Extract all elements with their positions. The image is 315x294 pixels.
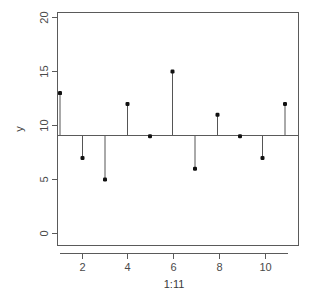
y-tick-label: 20 — [38, 11, 50, 23]
x-tick-label: 4 — [124, 261, 130, 273]
x-axis-title: 1:11 — [164, 278, 185, 290]
x-tick-label: 8 — [216, 261, 222, 273]
x-tick-label: 6 — [170, 261, 176, 273]
y-axis-title: y — [13, 126, 25, 132]
x-tick-label: 10 — [259, 261, 271, 273]
needle-series — [60, 72, 285, 180]
data-point — [58, 91, 62, 95]
y-tick-label: 0 — [38, 230, 50, 236]
plot-frame — [58, 13, 299, 246]
data-point — [148, 134, 152, 138]
y-tick-marks — [52, 18, 58, 234]
data-point — [103, 178, 107, 182]
x-tick-labels: 2 4 6 8 10 — [79, 261, 271, 273]
y-tick-labels: 20 15 10 5 0 — [38, 11, 50, 236]
data-point — [283, 102, 287, 106]
data-point — [238, 134, 242, 138]
data-point — [216, 113, 220, 117]
data-point — [126, 102, 130, 106]
y-tick-label: 5 — [38, 176, 50, 182]
data-point — [171, 70, 175, 74]
x-tick-marks — [83, 254, 266, 260]
needle-plot-svg: 20 15 10 5 0 2 4 6 8 10 y 1:11 — [0, 0, 315, 294]
chart-figure: 20 15 10 5 0 2 4 6 8 10 y 1:11 — [0, 0, 315, 294]
x-tick-label: 2 — [79, 261, 85, 273]
data-point — [81, 156, 85, 160]
data-point — [193, 167, 197, 171]
y-tick-label: 10 — [38, 119, 50, 131]
data-point — [261, 156, 265, 160]
y-tick-label: 15 — [38, 65, 50, 77]
